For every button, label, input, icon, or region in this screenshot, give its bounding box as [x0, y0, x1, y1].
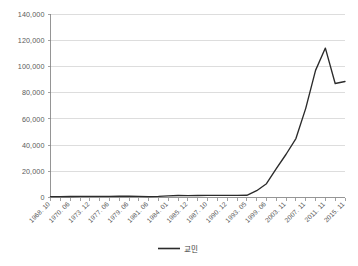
x-axis-tick-label: 1999. 06 [244, 200, 268, 224]
gridlines [48, 14, 346, 198]
y-axis-tick-label: 140,000 [18, 10, 45, 19]
line-chart: 020,00040,00060,00080,000100,000120,0001… [0, 0, 358, 266]
x-axis-tick-label: 2015. 11 [322, 200, 345, 223]
y-axis-tick-label: 0 [40, 193, 44, 202]
y-axis-tick-label: 40,000 [22, 141, 45, 150]
x-axis-tick-labels: 1968. 101970. 061973. 121977. 061979. 06… [28, 200, 346, 224]
y-axis-tick-label: 60,000 [22, 115, 45, 124]
legend-label-gyomin: 교민 [184, 244, 198, 254]
y-axis-tick-label: 80,000 [22, 88, 45, 97]
x-axis-tick-label: 2007. 11 [283, 200, 306, 223]
y-axis-tick-label: 120,000 [18, 36, 45, 45]
chart-canvas: 020,00040,00060,00080,000100,000120,0001… [0, 0, 358, 266]
chart-legend: 교민 [158, 244, 198, 254]
y-axis-tick-label: 20,000 [22, 167, 45, 176]
series-line-gyomin [51, 48, 346, 197]
y-axis-tick-label: 100,000 [18, 62, 45, 71]
y-axis-tick-labels: 020,00040,00060,00080,000100,000120,0001… [18, 10, 45, 203]
